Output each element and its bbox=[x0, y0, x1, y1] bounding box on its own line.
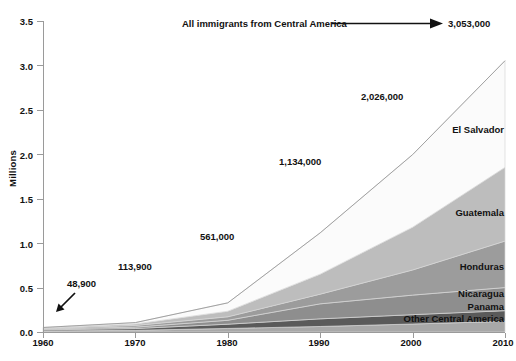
callout-1990: 1,134,000 bbox=[279, 156, 321, 167]
x-tick-label: 2010 bbox=[473, 337, 516, 348]
x-tick-label: 1970 bbox=[105, 337, 165, 348]
y-tick-mark bbox=[37, 65, 43, 66]
y-tick-mark bbox=[37, 154, 43, 155]
series-label-guatemala: Guatemala bbox=[455, 207, 504, 218]
callout-1980: 561,000 bbox=[200, 231, 234, 242]
y-tick-label: 1.5 bbox=[0, 194, 33, 205]
y-axis-line bbox=[43, 21, 44, 333]
immigration-area-chart: Millions 3.5 3.0 2.5 2.0 1.5 1.0 0.5 0.0… bbox=[0, 0, 516, 361]
x-axis-line bbox=[43, 332, 505, 333]
callout-2000: 2,026,000 bbox=[361, 91, 403, 102]
y-tick-label: 2.5 bbox=[0, 105, 33, 116]
series-label-nicaragua: Nicaragua bbox=[458, 288, 504, 299]
total-arrow-icon bbox=[332, 17, 444, 30]
y-tick-mark bbox=[37, 21, 43, 22]
series-label-panama: Panama bbox=[468, 301, 504, 312]
y-tick-label: 2.0 bbox=[0, 150, 33, 161]
total-value-label: 3,053,000 bbox=[448, 18, 490, 29]
y-tick-mark bbox=[37, 199, 43, 200]
y-tick-label: 0.5 bbox=[0, 283, 33, 294]
series-label-other-central-america: Other Central America bbox=[404, 313, 505, 324]
y-axis-title: Millions bbox=[7, 109, 18, 229]
x-tick-label: 2000 bbox=[381, 337, 441, 348]
x-tick-label: 1990 bbox=[289, 337, 349, 348]
x-tick-label: 1980 bbox=[197, 337, 257, 348]
callout-arrow-icon bbox=[54, 290, 78, 314]
x-tick-label: 1960 bbox=[13, 337, 73, 348]
y-tick-mark bbox=[37, 110, 43, 111]
y-tick-label: 3.0 bbox=[0, 61, 33, 72]
y-tick-label: 1.0 bbox=[0, 239, 33, 250]
callout-1970: 113,900 bbox=[118, 261, 152, 272]
series-label-honduras: Honduras bbox=[460, 261, 504, 272]
callout-1960: 48,900 bbox=[67, 278, 96, 289]
series-label-el-salvador: El Salvador bbox=[452, 124, 504, 135]
y-tick-mark bbox=[37, 288, 43, 289]
y-tick-label: 3.5 bbox=[0, 16, 33, 27]
chart-title: All immigrants from Central America bbox=[182, 18, 347, 29]
y-tick-mark bbox=[37, 243, 43, 244]
